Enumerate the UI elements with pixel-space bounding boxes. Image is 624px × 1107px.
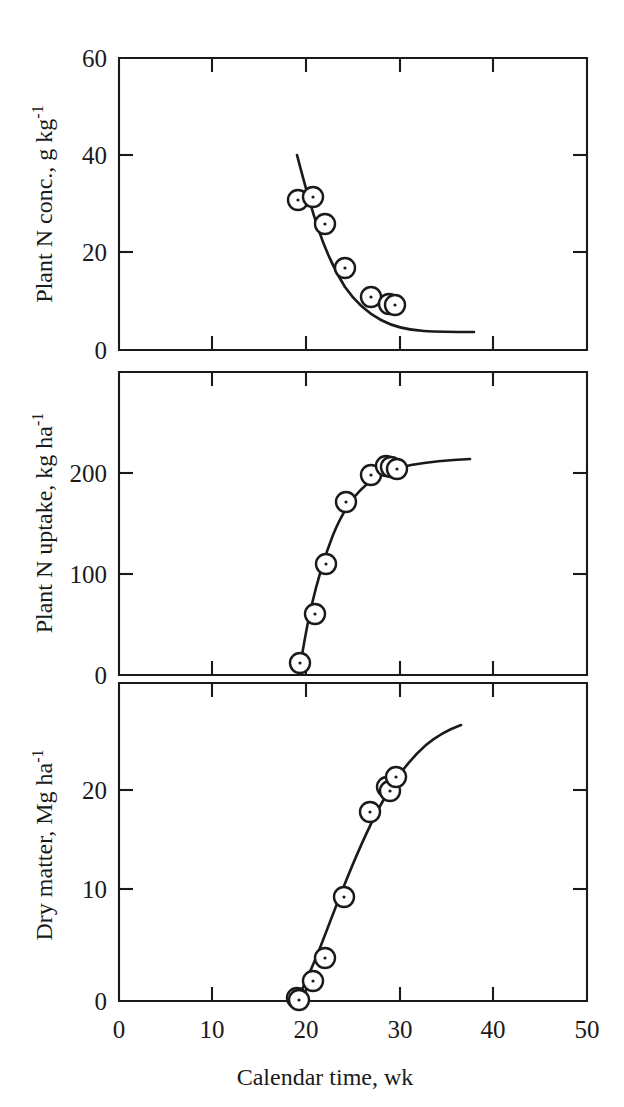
panel2-y-axis-title-sup: -1 bbox=[29, 413, 46, 426]
data-point bbox=[290, 653, 310, 673]
panel2-ylabel-200: 200 bbox=[70, 460, 108, 487]
panel1-ylabel-20: 20 bbox=[82, 239, 107, 266]
panel2-ylabel-100: 100 bbox=[70, 561, 108, 588]
panel2-y-axis-title-main: Plant N uptake, kg ha bbox=[31, 426, 57, 634]
panel3-ylabel-20: 20 bbox=[82, 777, 107, 804]
panel-plant-n-conc: 60 40 20 0 Plant N conc., g kg-1 bbox=[29, 45, 587, 364]
data-point bbox=[386, 767, 406, 787]
data-point bbox=[334, 887, 354, 907]
panel3-y-axis-title-main: Dry matter, Mg ha bbox=[31, 762, 57, 940]
xlabel-30: 30 bbox=[388, 1016, 413, 1043]
data-point bbox=[315, 948, 335, 968]
data-point bbox=[336, 492, 356, 512]
data-point bbox=[335, 258, 355, 278]
data-point bbox=[303, 971, 323, 991]
panel1-y-axis-title-main: Plant N conc., g kg bbox=[31, 119, 57, 303]
xlabel-40: 40 bbox=[481, 1016, 506, 1043]
xlabel-20: 20 bbox=[294, 1016, 319, 1043]
panel1-axis-frame bbox=[119, 58, 587, 350]
data-point bbox=[387, 459, 407, 479]
panel3-data-points bbox=[287, 767, 406, 1010]
panel-dry-matter: 20 10 0 Dry matter, Mg ha-1 bbox=[29, 683, 587, 1015]
panel1-y-axis-title: Plant N conc., g kg-1 bbox=[29, 105, 57, 302]
data-point bbox=[315, 214, 335, 234]
panel1-data-points bbox=[288, 187, 405, 315]
data-point bbox=[316, 554, 336, 574]
panel3-axis-frame bbox=[119, 683, 587, 1001]
data-point bbox=[385, 295, 405, 315]
panel3-y-axis-title: Dry matter, Mg ha-1 bbox=[29, 750, 57, 941]
panel3-ylabel-10: 10 bbox=[82, 876, 107, 903]
panel-plant-n-uptake: 200 100 0 Plant N uptake, kg ha-1 bbox=[29, 372, 587, 689]
panel3-y-axis-title-sup: -1 bbox=[29, 750, 46, 763]
x-axis-labels: 0 10 20 30 40 50 bbox=[113, 1016, 600, 1043]
xlabel-0: 0 bbox=[113, 1016, 126, 1043]
xlabel-10: 10 bbox=[200, 1016, 225, 1043]
x-axis-title: Calendar time, wk bbox=[237, 1064, 414, 1090]
panel1-ylabel-40: 40 bbox=[82, 142, 107, 169]
data-point bbox=[360, 802, 380, 822]
panel2-axis-frame bbox=[119, 372, 587, 675]
data-point bbox=[289, 990, 309, 1010]
data-point bbox=[305, 604, 325, 624]
three-panel-chart: 60 40 20 0 Plant N conc., g kg-1 bbox=[0, 0, 624, 1107]
panel1-y-axis-title-sup: -1 bbox=[29, 105, 46, 118]
panel1-ylabel-0: 0 bbox=[95, 337, 108, 364]
panel2-y-axis-title: Plant N uptake, kg ha-1 bbox=[29, 413, 57, 634]
panel2-data-points bbox=[290, 456, 407, 673]
panel2-ylabel-0: 0 bbox=[95, 662, 108, 689]
xlabel-50: 50 bbox=[575, 1016, 600, 1043]
panel3-ylabel-0: 0 bbox=[95, 988, 108, 1015]
data-point bbox=[303, 187, 323, 207]
figure-container: 60 40 20 0 Plant N conc., g kg-1 bbox=[0, 0, 624, 1107]
panel1-ylabel-60: 60 bbox=[82, 45, 107, 72]
